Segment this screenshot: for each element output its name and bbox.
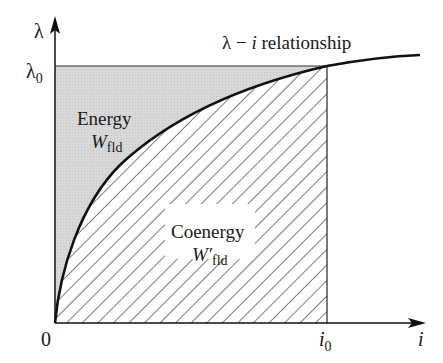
curve-label: λ − i relationship <box>222 32 351 53</box>
lambda-i-diagram: λ λ0 0 i0 i λ − i relationship Energy Wf… <box>0 0 443 363</box>
y-axis-label: λ <box>34 20 44 42</box>
x-axis-label: i <box>418 328 424 350</box>
energy-label: Energy <box>77 108 132 129</box>
origin-label: 0 <box>41 328 51 350</box>
coenergy-label: Coenergy <box>171 221 245 242</box>
lambda0-tick-label: λ0 <box>26 60 43 86</box>
i0-tick-label: i0 <box>319 328 332 354</box>
